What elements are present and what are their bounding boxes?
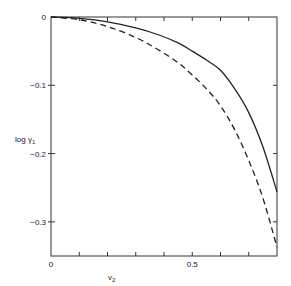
series-lines xyxy=(51,17,277,247)
x-tick-label: 0.5 xyxy=(187,260,199,269)
y-tick-label: −0.1 xyxy=(30,81,46,90)
y-tick-label: −0.3 xyxy=(30,218,46,227)
series-dashed xyxy=(51,17,277,247)
plot-frame xyxy=(51,17,277,256)
x-axis-label: v2 xyxy=(108,273,116,283)
axis-ticks: 00.50−0.1−0.2−0.3 xyxy=(30,13,277,269)
line-chart: 00.50−0.1−0.2−0.3 v2 log γ1 xyxy=(0,0,291,286)
plot-border xyxy=(51,17,277,256)
y-tick-label: −0.2 xyxy=(30,150,46,159)
x-tick-label: 0 xyxy=(49,260,54,269)
y-axis-label: log γ1 xyxy=(15,135,36,145)
series-solid xyxy=(51,17,277,192)
y-tick-label: 0 xyxy=(42,13,47,22)
